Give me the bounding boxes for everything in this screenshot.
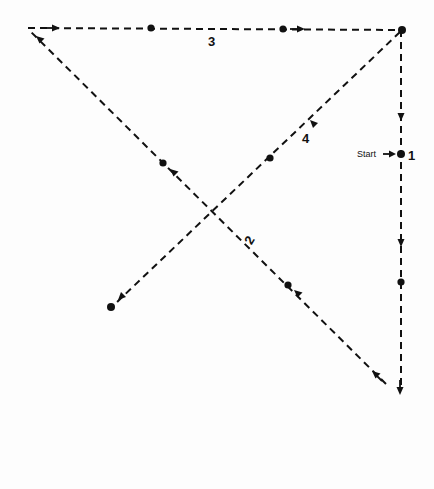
start-label: Start — [357, 149, 377, 159]
segment-2-line — [29, 30, 386, 384]
waypoint-dot — [397, 278, 404, 285]
arrow-down-left-icon — [310, 120, 318, 128]
arrow-down-icon — [398, 113, 405, 121]
segment-2-label: 2 — [241, 233, 258, 247]
arrow-up-left-icon — [170, 169, 179, 177]
arrow-down-left-icon — [118, 292, 126, 300]
waypoint-dot — [147, 24, 154, 31]
waypoint-dot — [159, 159, 166, 166]
arrow-down-icon — [397, 380, 404, 395]
segment-4-line — [116, 32, 400, 303]
segment-4-label: 4 — [302, 131, 310, 146]
arrow-right-icon — [44, 25, 60, 32]
waypoint-dot — [279, 25, 286, 32]
arrow-up-left-icon — [36, 36, 45, 44]
segment-1-label: 1 — [408, 148, 415, 163]
waypoint-dot — [284, 281, 291, 288]
arrow-right-icon — [290, 26, 305, 33]
waypoint-dot — [266, 154, 273, 161]
path-diagram: 3 4 1 2 Start — [0, 0, 434, 489]
start-dot — [397, 150, 405, 158]
segment-3-label: 3 — [208, 34, 215, 49]
arrow-down-icon — [398, 239, 405, 247]
end-dot — [107, 303, 115, 311]
waypoint-dot — [398, 26, 406, 34]
segment-3-line — [28, 28, 401, 30]
arrow-up-left-icon — [294, 290, 303, 298]
arrow-up-left-icon — [372, 371, 382, 381]
start-pointer-arrow-icon — [383, 151, 396, 158]
